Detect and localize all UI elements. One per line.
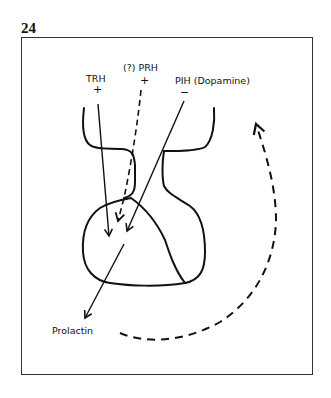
pih-dopamine-label: PIH (Dopamine): [175, 75, 250, 86]
prh-label: (?) PRH: [123, 62, 158, 73]
feedback-loop-arrow: [120, 124, 276, 340]
anterior-pituitary-lobe: [83, 198, 185, 286]
trh-arrow: [98, 104, 109, 236]
prolactin-label: Prolactin: [52, 325, 93, 336]
trh-stimulatory-sign: +: [93, 83, 102, 96]
prh-stimulatory-sign: +: [140, 74, 149, 87]
prolactin-output-arrow: [85, 244, 124, 318]
pih-inhibitory-sign: −: [180, 86, 189, 99]
prh-arrow: [118, 90, 141, 221]
prolactin-regulation-diagram: TRH + (?) PRH + PIH (Dopamine) − Prolact…: [0, 0, 331, 398]
